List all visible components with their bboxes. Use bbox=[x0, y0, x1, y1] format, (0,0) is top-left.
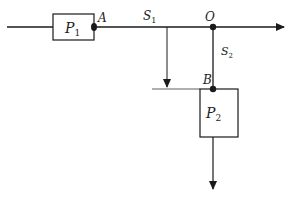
label-o: O bbox=[205, 10, 215, 24]
label-s2: S2 bbox=[221, 45, 233, 60]
point-a-dot bbox=[91, 23, 97, 31]
label-a: A bbox=[97, 11, 107, 25]
label-s1: S1 bbox=[143, 9, 156, 25]
label-b: B bbox=[202, 73, 212, 87]
diagram-canvas: P1 A S1 O S2 P2 B bbox=[0, 0, 288, 206]
